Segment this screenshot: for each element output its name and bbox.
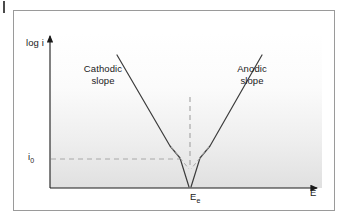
page-margin-rule (3, 1, 5, 13)
x-tick-label-Ee: Ee (190, 191, 200, 203)
x-tick-subscript: e (196, 197, 200, 204)
cathodic-annotation-line-1: Cathodic (84, 63, 122, 74)
cathodic-slope-annotation: Cathodic slope (67, 63, 139, 86)
plot-area: log i i0 Ee E Cathodic slope Anodic slop… (14, 11, 336, 212)
cathodic-annotation-line-2: slope (91, 75, 114, 86)
figure-frame: log i i0 Ee E Cathodic slope Anodic slop… (13, 10, 335, 211)
tafel-plot-svg (14, 11, 336, 212)
y-tick-label-i0: i0 (28, 151, 34, 163)
x-axis-label: E (310, 187, 316, 199)
anodic-annotation-line-2: slope (240, 75, 263, 86)
y-axis-label: log i (26, 37, 44, 49)
figure-root: log i i0 Ee E Cathodic slope Anodic slop… (0, 0, 347, 221)
anodic-slope-annotation: Anodic slope (219, 63, 285, 86)
y-tick-subscript: 0 (30, 157, 34, 164)
anodic-annotation-line-1: Anodic (237, 63, 267, 74)
